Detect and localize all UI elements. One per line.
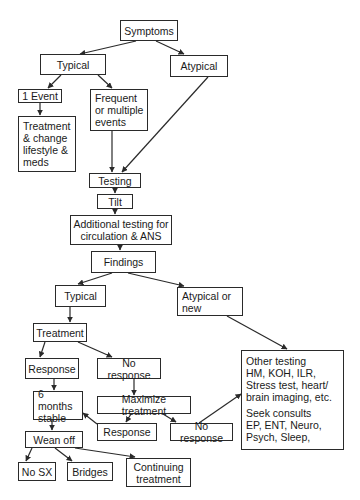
node-six-months-stable: 6 months stable [33, 391, 83, 420]
node-no-sx: No SX [18, 462, 56, 481]
node-treatment: Treatment [33, 323, 87, 342]
node-atypical-or-new: Atypical or new [177, 287, 243, 316]
node-wean-off: Wean off [25, 431, 83, 448]
node-testing: Testing [89, 173, 141, 188]
node-typical-mid: Typical [55, 285, 106, 307]
node-maximize-treatment: Maximize treatment [97, 396, 191, 414]
seek-consults-text: Seek consults EP, ENT, Neuro, Psych, Sle… [246, 407, 322, 443]
node-atypical-top: Atypical [170, 55, 228, 77]
node-bridges: Bridges [67, 462, 113, 481]
node-other-testing: Other testing HM, KOH, ILR, Stress test,… [241, 350, 344, 450]
node-response-2: Response [97, 423, 157, 441]
other-testing-text: Other testing HM, KOH, ILR, Stress test,… [246, 355, 332, 403]
flowchart-canvas: Symptoms Typical Atypical 1 Event Freque… [0, 0, 360, 500]
node-tilt: Tilt [97, 194, 133, 209]
node-response-1: Response [25, 358, 79, 379]
node-findings: Findings [91, 251, 156, 273]
node-symptoms: Symptoms [120, 20, 178, 41]
node-no-response-2: No response [170, 423, 233, 441]
node-typical-top: Typical [40, 54, 106, 75]
node-continuing-treatment: Continuing treatment [126, 458, 191, 487]
node-one-event: 1 Event [18, 89, 62, 103]
node-additional-testing: Additional testing for circulation & ANS [70, 215, 172, 245]
node-treatment-change-lifestyle: Treatment & change lifestyle & meds [18, 116, 76, 172]
node-no-response-1: No response [97, 358, 161, 379]
node-frequent-events: Frequent or multiple events [90, 89, 148, 131]
